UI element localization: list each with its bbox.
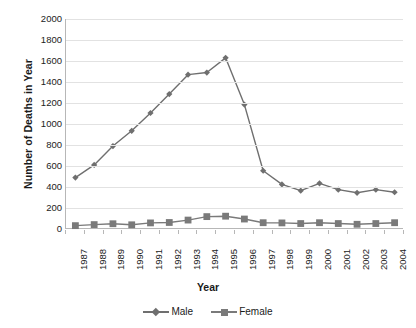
series-line xyxy=(75,58,394,193)
x-tick-label: 1991 xyxy=(154,230,164,270)
plot-area xyxy=(65,19,403,229)
y-axis-tick-labels: 2000180016001400120010008006004002000 xyxy=(24,0,62,328)
data-point-diamond xyxy=(316,180,322,186)
data-point-diamond xyxy=(392,189,398,195)
x-tick-mark xyxy=(65,230,66,234)
x-tick-label: 1996 xyxy=(248,230,258,270)
gridline xyxy=(66,166,403,167)
x-tick-label: 1992 xyxy=(173,230,183,270)
data-point-square xyxy=(297,220,304,227)
y-tick-label: 1200 xyxy=(26,98,62,108)
data-point-square xyxy=(128,221,135,228)
x-tick-label: 2004 xyxy=(398,230,408,270)
data-point-square xyxy=(222,213,229,220)
x-tick-label: 1999 xyxy=(304,230,314,270)
data-point-square xyxy=(260,219,267,226)
x-tick-label: 2000 xyxy=(323,230,333,270)
data-point-square xyxy=(335,220,342,227)
data-point-square xyxy=(110,220,117,227)
x-tick-label: 1997 xyxy=(267,230,277,270)
data-point-square xyxy=(147,220,154,227)
x-tick-label: 1998 xyxy=(285,230,295,270)
y-tick-label: 1800 xyxy=(26,35,62,45)
x-tick-label: 1995 xyxy=(229,230,239,270)
gridline xyxy=(66,61,403,62)
x-tick-label: 2003 xyxy=(379,230,389,270)
data-point-square xyxy=(185,217,192,224)
y-tick-label: 200 xyxy=(26,203,62,213)
data-point-square xyxy=(316,219,323,226)
legend-label: Male xyxy=(171,306,193,317)
gridline xyxy=(66,145,403,146)
y-tick-label: 800 xyxy=(26,140,62,150)
data-point-square xyxy=(354,221,361,228)
chart-legend: MaleFemale xyxy=(0,306,416,317)
data-point-square xyxy=(391,219,398,226)
x-tick-label: 2002 xyxy=(361,230,371,270)
legend-item-female[interactable]: Female xyxy=(211,306,272,317)
square-marker-icon xyxy=(211,307,237,317)
x-tick-label: 1994 xyxy=(210,230,220,270)
x-tick-label: 1987 xyxy=(79,230,89,270)
legend-label: Female xyxy=(239,306,272,317)
series-female xyxy=(72,213,398,229)
data-point-square xyxy=(241,216,248,223)
diamond-marker-icon xyxy=(143,307,169,317)
y-tick-label: 1000 xyxy=(26,119,62,129)
x-tick-label: 1990 xyxy=(135,230,145,270)
x-tick-label: 2001 xyxy=(342,230,352,270)
data-point-square xyxy=(372,220,379,227)
x-tick-label: 1989 xyxy=(116,230,126,270)
series-line xyxy=(75,216,394,225)
y-tick-label: 400 xyxy=(26,182,62,192)
data-point-square xyxy=(166,219,173,226)
data-point-square xyxy=(279,220,286,227)
x-axis-tick-labels: 1987198819891990199119921993199419951996… xyxy=(65,230,403,276)
data-point-diamond xyxy=(354,190,360,196)
legend-item-male[interactable]: Male xyxy=(143,306,193,317)
gridline xyxy=(66,187,403,188)
data-point-square xyxy=(203,213,210,220)
y-tick-label: 1600 xyxy=(26,56,62,66)
data-point-square xyxy=(72,222,79,229)
gridline xyxy=(66,208,403,209)
gridline xyxy=(66,40,403,41)
gridline xyxy=(66,82,403,83)
gridline xyxy=(66,124,403,125)
y-tick-label: 0 xyxy=(26,224,62,234)
series-male xyxy=(72,55,397,196)
data-point-square xyxy=(91,221,98,228)
y-tick-label: 600 xyxy=(26,161,62,171)
y-tick-label: 1400 xyxy=(26,77,62,87)
data-point-diamond xyxy=(298,188,304,194)
gridline xyxy=(66,19,403,20)
line-chart: Number of Deaths in Year 200018001600140… xyxy=(0,0,416,328)
x-tick-label: 1988 xyxy=(98,230,108,270)
y-tick-label: 2000 xyxy=(26,14,62,24)
x-tick-label: 1993 xyxy=(192,230,202,270)
gridline xyxy=(66,103,403,104)
x-axis-title: Year xyxy=(0,281,416,293)
